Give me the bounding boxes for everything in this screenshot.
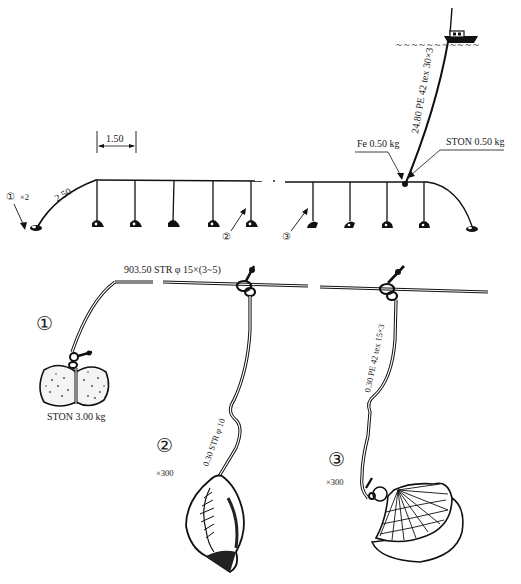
pot-branch bbox=[246, 181, 258, 227]
part-1-number: ① bbox=[36, 313, 53, 334]
part-3-scallop-assembly: 0.30 PE 42 tex 15×3 ③ ×300 bbox=[326, 266, 463, 562]
main-line bbox=[115, 282, 488, 292]
end-line-label: 2.50 bbox=[53, 185, 74, 203]
part-2-number: ② bbox=[156, 435, 173, 456]
scallop-shell-icon bbox=[366, 478, 463, 562]
buoy-line-label: 24.80 PE 42 tex 30×3 bbox=[409, 47, 435, 135]
conch-shell-icon bbox=[186, 476, 244, 573]
callout-1: ① bbox=[6, 191, 15, 202]
right-branch-group bbox=[307, 182, 430, 228]
fe-weight-label: Fe 0.50 kg bbox=[357, 138, 400, 149]
scallop-branch bbox=[419, 182, 430, 228]
pot-branch bbox=[130, 181, 142, 227]
spacing-label: 1.50 bbox=[106, 133, 124, 144]
pot-branch bbox=[168, 181, 180, 227]
part-2-count: ×300 bbox=[156, 468, 174, 478]
callout-2: ② bbox=[222, 231, 231, 242]
left-branch-group bbox=[92, 181, 258, 227]
pot-branch bbox=[92, 181, 104, 227]
callout-1-count: ×2 bbox=[20, 192, 29, 202]
scallop-branch bbox=[344, 182, 355, 228]
part-2-conch-assembly: 0.30 STR φ 10 ② ×300 bbox=[156, 266, 255, 572]
part-2-branch-label: 0.30 STR φ 10 bbox=[200, 417, 227, 468]
scallop-branch bbox=[382, 182, 393, 228]
pot-branch bbox=[208, 181, 220, 227]
main-line-label: 903.50 STR φ 15×(3~5) bbox=[124, 264, 221, 276]
pot-longline-diagram: ~ ~ ~ ~ ~ ~ ~ ~ ~ ~ ~ 24.80 PE 42 tex 30… bbox=[0, 0, 521, 584]
part-3-count: ×300 bbox=[326, 477, 344, 487]
end-stone-icon-left bbox=[30, 225, 42, 231]
scallop-branch bbox=[307, 182, 318, 228]
stone-weight-icon bbox=[40, 365, 109, 406]
overview-section: ~ ~ ~ ~ ~ ~ ~ ~ ~ ~ ~ 24.80 PE 42 tex 30… bbox=[6, 8, 504, 242]
spacing-dimension: 1.50 bbox=[97, 131, 136, 153]
ston-small-label: STON 0.50 kg bbox=[446, 136, 504, 147]
detail-section: 903.50 STR φ 15×(3~5) bbox=[36, 264, 488, 572]
water-surface: ~ ~ ~ ~ ~ ~ ~ ~ ~ ~ ~ bbox=[396, 38, 479, 50]
part-1-weight-label: STON 3.00 kg bbox=[47, 411, 105, 422]
callout-3: ③ bbox=[282, 231, 291, 242]
part-3-number: ③ bbox=[328, 449, 345, 470]
end-stone-icon-right bbox=[466, 226, 478, 232]
part-1-stone-assembly: ① STON 3.00 kg bbox=[36, 282, 115, 422]
